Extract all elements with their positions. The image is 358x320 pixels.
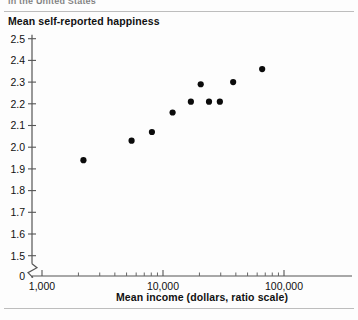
data-point [80, 157, 86, 163]
x-axis-title: Mean income (dollars, ratio scale) [0, 291, 358, 303]
data-point [259, 66, 265, 72]
bottom-divider-rule [4, 308, 354, 309]
y-tick-label: 1.9 [10, 163, 25, 175]
data-point [206, 99, 212, 105]
data-points-layer [80, 66, 265, 163]
data-point [128, 138, 134, 144]
y-tick-label: 1.8 [10, 184, 25, 196]
data-point [169, 109, 175, 115]
y-tick-label: 2.3 [10, 76, 25, 88]
y-tick-label: 1.5 [10, 250, 25, 262]
y-tick-label: 1.6 [10, 228, 25, 240]
y-tick-label: 2.1 [10, 119, 25, 131]
y-tick-label: 2.0 [10, 141, 25, 153]
y-tick-label: 1.7 [10, 206, 25, 218]
y-tick-label: 2.4 [10, 54, 25, 66]
data-point [149, 129, 155, 135]
axes-layer [28, 35, 352, 278]
scatter-plot: 2.52.42.32.22.12.01.91.81.71.61.501,0001… [0, 0, 358, 320]
data-point [217, 99, 223, 105]
y-tick-label-zero: 0 [19, 270, 25, 282]
y-tick-label: 2.2 [10, 98, 25, 110]
y-tick-label: 2.5 [10, 33, 25, 45]
figure-container: in the United States Mean self-reported … [0, 0, 358, 320]
data-point [230, 79, 236, 85]
tick-labels-layer: 2.52.42.32.22.12.01.91.81.71.61.501,0001… [10, 33, 303, 293]
data-point [188, 99, 194, 105]
data-point [198, 81, 204, 87]
